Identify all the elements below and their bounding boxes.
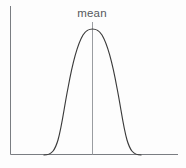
normal-distribution-figure: mean [0, 0, 186, 168]
distribution-plot [0, 0, 186, 168]
